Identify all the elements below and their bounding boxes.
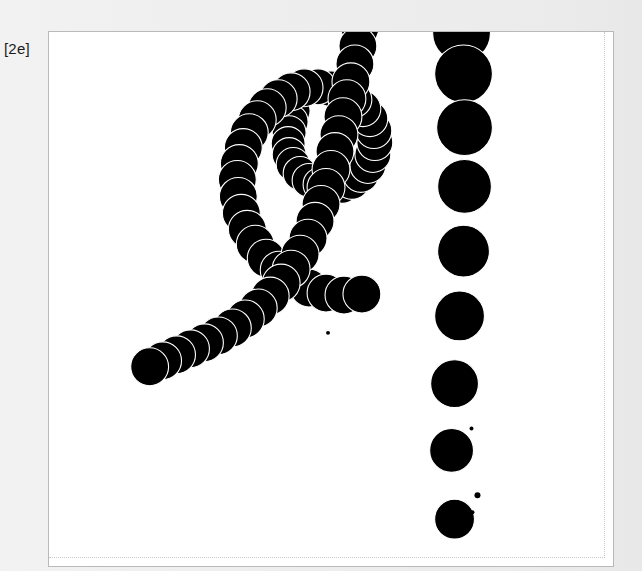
data-point [343,275,381,313]
data-point [131,348,169,386]
data-point [438,160,492,214]
data-point [474,492,480,498]
data-point [435,45,493,103]
series-size-ramp-column [430,32,493,539]
data-point [431,360,479,408]
data-point [430,429,474,473]
data-point [470,427,474,431]
scatter-plot-canvas[interactable] [49,32,613,566]
data-point [326,331,330,335]
screenshot-root: [2e] [0,0,642,571]
figure-label: [2e] [4,40,30,57]
series-speckles [326,331,480,514]
data-point [435,291,485,341]
data-point [438,225,490,277]
data-point [471,510,475,514]
data-point [435,499,475,539]
data-point [437,100,493,156]
plot-frame [48,31,614,567]
